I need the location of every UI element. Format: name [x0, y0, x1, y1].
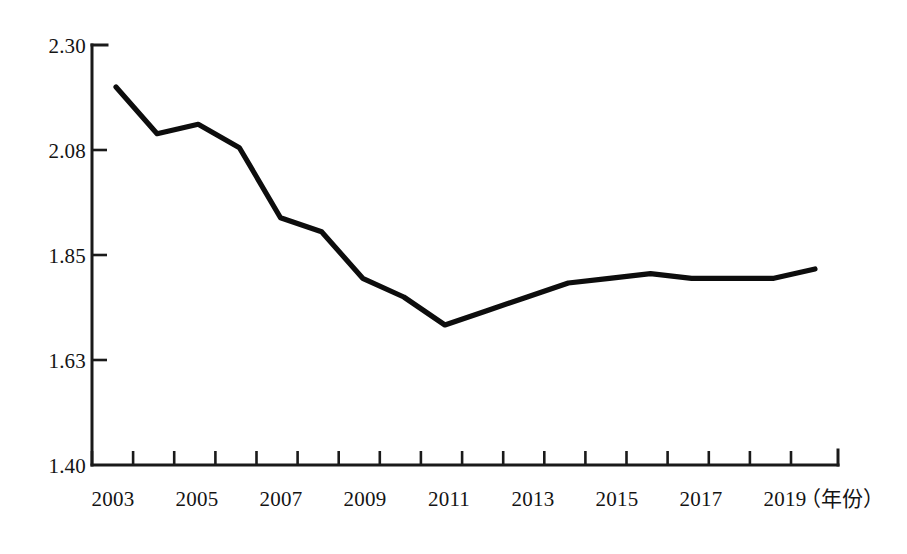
line-chart: 2.30 2.08 1.85 1.63 1.40 2003 2005 2007 …	[0, 0, 907, 554]
data-series-line	[116, 87, 815, 325]
y-axis-ticks	[92, 150, 107, 360]
x-axis-ticks	[92, 451, 791, 465]
plot-area	[0, 0, 907, 554]
